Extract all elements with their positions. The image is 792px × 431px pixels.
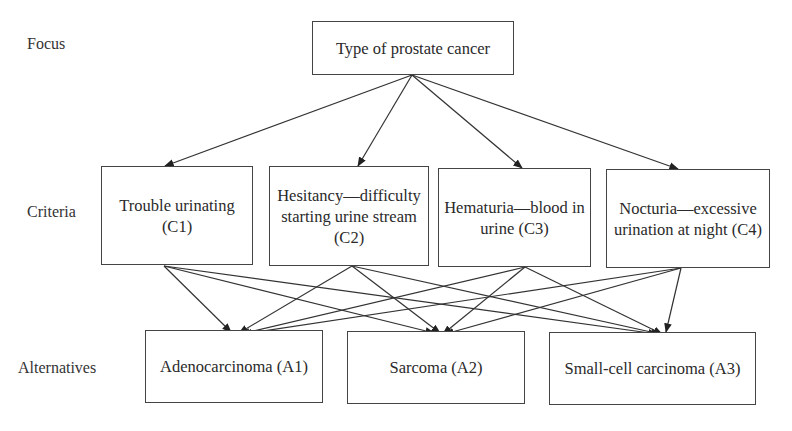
criterion-node-c1: Trouble urinating (C1)	[101, 166, 253, 265]
criterion-node-c4: Nocturia—excessive urination at night (C…	[606, 169, 770, 268]
criterion-node-c3: Hematuria—blood in urine (C3)	[438, 168, 591, 267]
level-label-alternatives: Alternatives	[18, 359, 96, 377]
level-label-criteria: Criteria	[27, 203, 76, 221]
alternative-node-a1: Adenocarcinoma (A1)	[145, 330, 323, 403]
alternative-node-a3: Small-cell carcinoma (A3)	[549, 332, 756, 405]
criterion-node-c2: Hesitancy—difficulty starting urine stre…	[269, 166, 429, 266]
goal-node: Type of prostate cancer	[312, 21, 514, 75]
alternative-node-a2: Sarcoma (A2)	[347, 331, 525, 404]
level-label-focus: Focus	[27, 35, 65, 53]
